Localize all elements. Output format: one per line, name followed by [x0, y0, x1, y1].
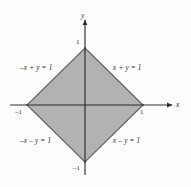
edge-label-bottom-left: –x – y = 1 [20, 137, 51, 145]
x-tick-label-positive-one: 1 [140, 108, 144, 116]
math-figure-region-plot: –x + y = 1 x + y = 1 –x – y = 1 x – y = … [0, 0, 191, 187]
edge-label-bottom-right: x – y = 1 [113, 137, 140, 145]
x-tick-label-negative-one: –1 [15, 108, 22, 116]
y-tick-label-positive-one: 1 [76, 38, 80, 46]
y-tick-label-negative-one: –1 [73, 164, 80, 172]
y-axis-label: y [81, 11, 84, 20]
edge-label-top-left: –x + y = 1 [20, 64, 52, 72]
coordinate-plot-svg [0, 0, 191, 187]
x-axis-label: x [176, 100, 179, 109]
edge-label-top-right: x + y = 1 [113, 64, 142, 72]
